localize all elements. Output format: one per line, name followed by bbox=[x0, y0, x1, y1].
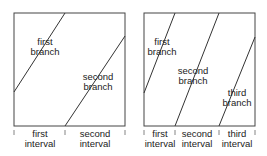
interval-label: interval bbox=[25, 138, 56, 149]
third-branch-line bbox=[219, 37, 255, 126]
left-frame bbox=[14, 13, 125, 126]
interval-label: interval bbox=[182, 138, 213, 149]
branch-label: branch bbox=[178, 75, 207, 86]
interval-label: interval bbox=[222, 138, 253, 149]
left-diagram: first branch second branch first interva… bbox=[14, 13, 125, 149]
branch-label: branch bbox=[83, 81, 112, 92]
interval-label: interval bbox=[80, 138, 111, 149]
branch-label: branch bbox=[222, 97, 251, 108]
right-diagram: first branch second branch third branch … bbox=[144, 13, 255, 149]
branch-label: branch bbox=[147, 46, 176, 57]
branch-diagrams: first branch second branch first interva… bbox=[0, 0, 267, 156]
branch-label: branch bbox=[30, 46, 59, 57]
interval-label: interval bbox=[145, 138, 176, 149]
